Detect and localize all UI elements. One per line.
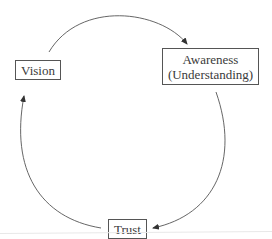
node-trust: Trust: [108, 219, 147, 239]
node-vision-label: Vision: [21, 63, 55, 78]
node-awareness: Awareness (Understanding): [162, 48, 259, 85]
node-vision: Vision: [15, 60, 61, 80]
node-trust-label: Trust: [114, 222, 141, 237]
node-awareness-sublabel: (Understanding): [163, 67, 258, 82]
arrow-awareness-to-trust: [153, 92, 225, 228]
arrow-vision-to-awareness: [49, 16, 187, 52]
node-awareness-label: Awareness: [163, 52, 258, 67]
cycle-arrows: [0, 0, 272, 239]
arrow-trust-to-vision: [21, 96, 101, 228]
